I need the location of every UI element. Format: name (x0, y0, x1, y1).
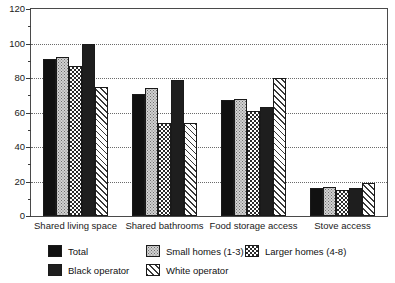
y-tick-100 (26, 44, 31, 45)
bar-chart-figure: 020406080100120 Shared living spaceShare… (0, 0, 395, 283)
bar-group (43, 9, 109, 216)
bar (336, 190, 349, 216)
y-tick-120 (26, 9, 31, 10)
legend-label: Total (68, 246, 88, 257)
bar (221, 100, 234, 216)
legend-swatch-icon (146, 264, 160, 276)
bar (43, 59, 56, 216)
y-tick-minor-90 (28, 61, 31, 62)
legend-label: Black operator (68, 265, 129, 276)
y-tick-minor-30 (28, 164, 31, 165)
bar (184, 123, 197, 216)
bar (145, 88, 158, 216)
y-tick-label-40: 40 (0, 142, 25, 152)
bar (349, 188, 362, 216)
legend-swatch-icon (146, 245, 160, 257)
plot-area (31, 9, 387, 216)
legend-swatch-icon (48, 264, 62, 276)
bar (362, 183, 375, 216)
legend-label: Larger homes (4-8) (265, 246, 346, 257)
bar (132, 94, 145, 216)
y-tick-label-120: 120 (0, 4, 25, 14)
bar (95, 87, 108, 216)
legend-swatch-icon (48, 245, 62, 257)
y-tick-label-60: 60 (0, 108, 25, 118)
bar-group (221, 9, 287, 216)
legend-item[interactable]: Black operator (48, 263, 129, 277)
bar (56, 57, 69, 216)
cropped-title (30, 0, 230, 6)
bar (82, 44, 95, 217)
y-tick-minor-70 (28, 95, 31, 96)
y-tick-minor-110 (28, 26, 31, 27)
bar (273, 78, 286, 216)
y-tick-40 (26, 147, 31, 148)
y-tick-0 (26, 216, 31, 217)
bar-group (132, 9, 198, 216)
bar (247, 111, 260, 216)
y-tick-60 (26, 113, 31, 114)
legend-swatch-icon (245, 245, 259, 257)
x-axis-label: Stove access (288, 220, 395, 231)
y-tick-20 (26, 182, 31, 183)
bar (69, 66, 82, 216)
bar (260, 107, 273, 216)
bar (171, 80, 184, 216)
legend-label: White operator (166, 265, 228, 276)
y-tick-minor-10 (28, 199, 31, 200)
bar-group (310, 9, 376, 216)
y-tick-label-20: 20 (0, 177, 25, 187)
y-tick-80 (26, 78, 31, 79)
chart-legend: TotalSmall homes (1-3)Larger homes (4-8)… (0, 240, 395, 283)
y-tick-label-100: 100 (0, 39, 25, 49)
legend-item[interactable]: White operator (146, 263, 228, 277)
bar (234, 99, 247, 216)
y-tick-label-80: 80 (0, 73, 25, 83)
legend-label: Small homes (1-3) (166, 246, 244, 257)
bar (158, 123, 171, 216)
legend-item[interactable]: Larger homes (4-8) (245, 244, 346, 258)
bar (323, 187, 336, 216)
y-tick-minor-50 (28, 130, 31, 131)
legend-item[interactable]: Small homes (1-3) (146, 244, 244, 258)
bar (310, 188, 323, 216)
legend-item[interactable]: Total (48, 244, 88, 258)
